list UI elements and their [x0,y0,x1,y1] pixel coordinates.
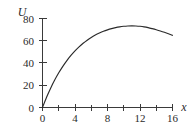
x-tick-label-12: 12 [135,112,146,124]
y-axis-label: U [18,5,28,19]
y-tick-label-40: 40 [23,57,35,69]
y-tick-label-20: 20 [23,79,35,91]
x-tick-label-0: 0 [40,112,46,124]
chart-figure: 80 60 40 20 0 0 4 8 12 16 U x [0,0,193,131]
data-curve-u [43,26,173,108]
x-axis-label: x [180,100,187,114]
chart-plot-area: 80 60 40 20 0 0 4 8 12 16 U x [0,0,193,131]
x-tick-label-8: 8 [105,112,111,124]
x-tick-label-4: 4 [72,112,78,124]
y-tick-label-0: 0 [29,102,35,114]
y-tick-label-60: 60 [23,35,35,47]
x-tick-label-16: 16 [167,112,179,124]
